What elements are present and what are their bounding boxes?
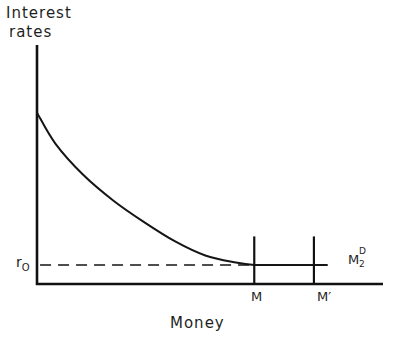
m2d-main: M [348,252,359,267]
r0-tick-label: rO [16,254,30,273]
r0-sub: O [22,262,30,273]
m2d-sub: 2 [359,259,365,269]
vertical-lines-layer [254,236,314,284]
m-prime-tick-label: M′ [317,289,331,304]
x-axis-label: Money [170,314,225,332]
series-layer [37,113,328,265]
m2d-series-label: MD2 [348,252,359,267]
m2d-sup: D [359,246,366,256]
m-tick-label: M [251,289,262,304]
series-line-m2d [37,113,328,265]
chart-plot [0,0,401,341]
